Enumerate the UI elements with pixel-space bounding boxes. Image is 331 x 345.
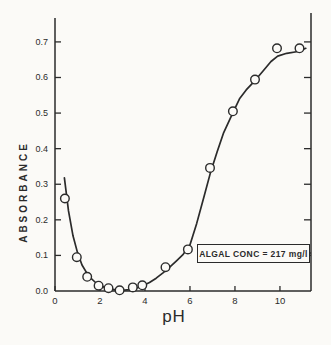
data-point [115, 286, 124, 295]
data-point [61, 194, 70, 203]
data-point [273, 44, 282, 53]
data-point [83, 273, 92, 282]
data-point [251, 75, 260, 84]
x-tick-label: 4 [142, 295, 147, 306]
x-axis-title: pH [162, 307, 186, 327]
data-point [94, 281, 103, 290]
data-point [229, 107, 238, 116]
figure: 0.00.10.20.30.40.50.60.70246810 ABSORBAN… [0, 0, 331, 345]
data-point [161, 263, 170, 272]
y-tick-label: 0.7 [35, 37, 48, 47]
y-tick-label: 0.1 [35, 250, 48, 260]
x-tick-label: 8 [232, 295, 237, 306]
annotation-box: ALGAL CONC = 217 mg/l [197, 244, 310, 263]
annotation-text: ALGAL CONC = 217 mg/l [199, 249, 308, 259]
y-tick-label: 0.5 [35, 108, 48, 118]
y-tick-label: 0.2 [35, 215, 48, 225]
data-point [184, 245, 193, 254]
y-axis-title: ABSORBANCE [18, 141, 29, 243]
data-point [104, 284, 113, 293]
x-tick-label: 10 [275, 295, 286, 306]
data-point [73, 253, 82, 262]
x-tick-label: 2 [97, 295, 102, 306]
y-tick-label: 0.0 [35, 286, 48, 296]
x-tick-label: 0 [52, 295, 57, 306]
x-tick-label: 6 [187, 295, 192, 306]
data-point [129, 283, 138, 292]
y-tick-label: 0.6 [35, 72, 48, 82]
absorbance-vs-ph-chart: 0.00.10.20.30.40.50.60.70246810 [0, 0, 331, 345]
data-point [295, 44, 304, 53]
data-point [206, 164, 215, 173]
y-tick-label: 0.3 [35, 179, 48, 189]
y-tick-label: 0.4 [35, 144, 48, 154]
data-point [138, 281, 147, 290]
